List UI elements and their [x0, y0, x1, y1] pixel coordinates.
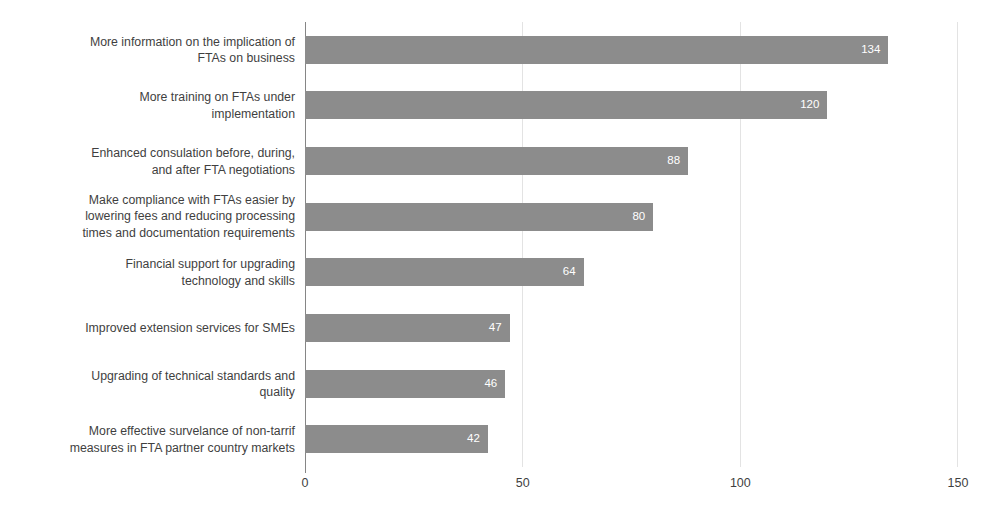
bar-container: 47: [305, 314, 510, 342]
bar[interactable]: 47: [305, 314, 510, 342]
x-tick-label: 100: [730, 476, 751, 490]
bar-value-label: 64: [563, 267, 576, 279]
bar[interactable]: 42: [305, 425, 488, 453]
bar-row: More effective survelance of non-tarrif …: [0, 411, 998, 467]
bar-container: 42: [305, 425, 488, 453]
category-label: Make compliance with FTAs easier by lowe…: [10, 192, 295, 242]
x-tick-label: 0: [302, 476, 309, 490]
category-label: More information on the implication of F…: [10, 33, 295, 66]
bar-row: Make compliance with FTAs easier by lowe…: [0, 189, 998, 245]
axis-tick-zero: [305, 467, 306, 473]
bar-container: 80: [305, 203, 653, 231]
x-tick-label: 150: [948, 476, 969, 490]
category-label: More training on FTAs under implementati…: [10, 89, 295, 122]
bar[interactable]: 80: [305, 203, 653, 231]
bar-container: 46: [305, 370, 505, 398]
bar-value-label: 47: [489, 322, 502, 334]
category-label: Upgrading of technical standards and qua…: [10, 367, 295, 400]
bar-row: More information on the implication of F…: [0, 22, 998, 78]
bar-container: 88: [305, 147, 688, 175]
bar-row: Enhanced consulation before, during, and…: [0, 133, 998, 189]
bar-row: Upgrading of technical standards and qua…: [0, 356, 998, 412]
bar-row: Financial support for upgrading technolo…: [0, 245, 998, 301]
horizontal-bar-chart: More information on the implication of F…: [0, 0, 998, 519]
bar-value-label: 46: [484, 378, 497, 390]
bar-value-label: 88: [667, 155, 680, 167]
bar-value-label: 120: [800, 100, 819, 112]
bar[interactable]: 134: [305, 36, 888, 64]
bar-value-label: 134: [861, 44, 880, 56]
bar-value-label: 42: [467, 433, 480, 445]
bar[interactable]: 64: [305, 258, 584, 286]
bar-row: More training on FTAs under implementati…: [0, 78, 998, 134]
bar-container: 134: [305, 36, 888, 64]
bar-container: 64: [305, 258, 584, 286]
category-label: Improved extension services for SMEs: [10, 320, 295, 337]
category-label: Enhanced consulation before, during, and…: [10, 145, 295, 178]
bar-value-label: 80: [632, 211, 645, 223]
x-tick-label: 50: [516, 476, 530, 490]
bar[interactable]: 88: [305, 147, 688, 175]
bar[interactable]: 120: [305, 91, 827, 119]
bar[interactable]: 46: [305, 370, 505, 398]
category-label: More effective survelance of non-tarrif …: [10, 423, 295, 456]
bar-row: Improved extension services for SMEs47: [0, 300, 998, 356]
bar-container: 120: [305, 91, 827, 119]
category-label: Financial support for upgrading technolo…: [10, 256, 295, 289]
